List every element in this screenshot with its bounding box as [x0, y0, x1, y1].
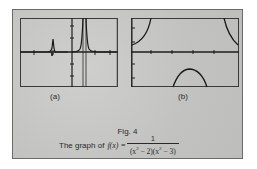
numerator: 1 [127, 135, 179, 144]
fraction: 1 (x2 − 2)(x2 − 3) [129, 135, 177, 156]
figure-panel: (a) (b) Fig. 4 The graph of f(x) = 1 (x2… [12, 9, 243, 159]
panel-a-label: (a) [40, 92, 70, 101]
den-part3: − 3) [162, 147, 176, 156]
graph-a [20, 18, 119, 88]
graph-b [131, 18, 240, 88]
panel-b-label: (b) [168, 92, 198, 101]
caption-prefix: The graph of [59, 141, 104, 150]
function-name: f(x) = [107, 141, 126, 150]
figure-caption: The graph of f(x) = 1 (x2 − 2)(x2 − 3) [59, 135, 177, 156]
denominator: (x2 − 2)(x2 − 3) [129, 144, 177, 156]
den-part2: − 2)(x [139, 147, 159, 156]
